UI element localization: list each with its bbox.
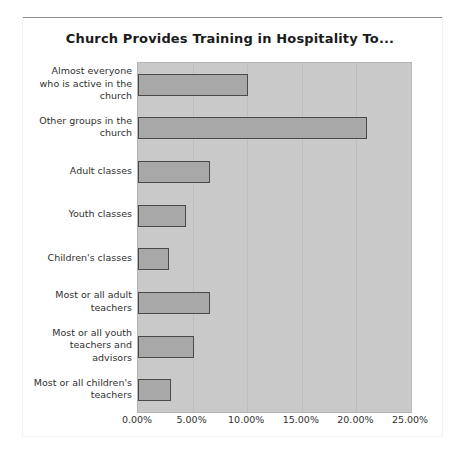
y-axis-label-line: teachers (34, 389, 132, 402)
bar-row (138, 107, 411, 151)
x-axis-tick-label: 5.00% (177, 414, 207, 425)
bar[interactable] (138, 74, 248, 96)
x-axis-tick-label: 15.00% (283, 414, 319, 425)
y-axis-label-line: church (39, 127, 132, 140)
bar[interactable] (138, 117, 367, 139)
y-axis-label-line: Youth classes (68, 208, 132, 221)
bar[interactable] (138, 248, 169, 270)
plot-area (137, 62, 412, 413)
y-axis-label-line: who is active in the (40, 78, 132, 91)
figure-right-edge (442, 17, 443, 436)
bar-row (138, 281, 411, 325)
y-axis-category-labels: Almost everyonewho is active in thechurc… (18, 62, 132, 411)
header-divider (22, 17, 443, 18)
y-axis-label-line: Most or all adult (55, 289, 132, 302)
x-axis-tick-label: 10.00% (228, 414, 264, 425)
gridline (411, 63, 412, 412)
y-axis-label-line: Children's classes (48, 252, 132, 265)
bar[interactable] (138, 205, 186, 227)
y-axis-label: Almost everyonewho is active in thechurc… (18, 62, 132, 106)
bar[interactable] (138, 161, 210, 183)
x-axis-tick-label: 0.00% (122, 414, 152, 425)
bar[interactable] (138, 336, 194, 358)
y-axis-label: Most or all children'steachers (18, 367, 132, 411)
y-axis-label: Youth classes (18, 193, 132, 237)
y-axis-label-line: Other groups in the (39, 115, 132, 128)
bar-series (138, 63, 411, 412)
y-axis-label-line: church (40, 90, 132, 103)
y-axis-label-line: Adult classes (70, 165, 132, 178)
bar-row (138, 368, 411, 412)
y-axis-label-line: teachers and (52, 339, 132, 352)
bar-row (138, 63, 411, 107)
bar[interactable] (138, 379, 171, 401)
y-axis-label: Other groups in thechurch (18, 106, 132, 150)
y-axis-label: Children's classes (18, 237, 132, 281)
chart-title: Church Provides Training in Hospitality … (0, 31, 460, 46)
bar-row (138, 194, 411, 238)
bar-row (138, 238, 411, 282)
y-axis-label-line: Most or all youth (52, 327, 132, 340)
figure-bottom-edge (22, 436, 443, 437)
bar-row (138, 150, 411, 194)
y-axis-label-line: teachers (55, 302, 132, 315)
x-axis-tick-label: 20.00% (337, 414, 373, 425)
y-axis-label-line: Most or all children's (34, 377, 132, 390)
y-axis-label-line: advisors (52, 352, 132, 365)
y-axis-label: Adult classes (18, 149, 132, 193)
x-axis-tick-labels: 0.00%5.00%10.00%15.00%20.00%25.00% (137, 414, 410, 430)
x-axis-tick-label: 25.00% (392, 414, 428, 425)
chart-page: Church Provides Training in Hospitality … (0, 0, 460, 461)
bar[interactable] (138, 292, 210, 314)
y-axis-label: Most or all adultteachers (18, 280, 132, 324)
bar-row (138, 325, 411, 369)
y-axis-label: Most or all youthteachers andadvisors (18, 324, 132, 368)
y-axis-label-line: Almost everyone (40, 65, 132, 78)
